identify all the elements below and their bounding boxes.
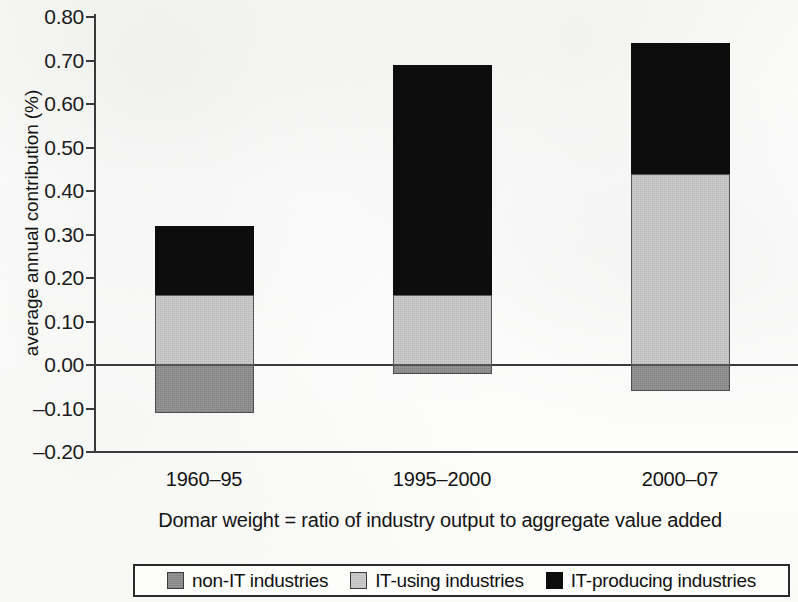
y-axis-tick-label-text: 0.40 (4, 180, 84, 201)
x-axis-caption: Domar weight = ratio of industry output … (120, 508, 760, 533)
y-axis-tick-label: –0.10 (0, 398, 84, 419)
y-axis-tick-label-text: 0.00 (4, 354, 84, 375)
y-axis-tick-label-text: –0.20 (4, 441, 84, 462)
legend-item: IT-using industries (350, 571, 523, 590)
y-axis-title: average annual contribution (%) (21, 58, 43, 388)
y-axis-tick (86, 408, 95, 410)
x-axis-category-label: 1995–2000 (332, 467, 552, 491)
y-axis-tick (86, 321, 95, 323)
axis-bottom-line (94, 451, 798, 453)
y-axis-tick-label-text: 0.50 (4, 137, 84, 158)
y-axis-tick-label: –0.20 (0, 441, 84, 462)
legend-item-label: IT-producing industries (571, 571, 756, 590)
y-axis-tick-label-text: 0.70 (4, 50, 84, 71)
plot-area: 0.800.700.600.500.400.300.200.100.00–0.1… (0, 0, 798, 602)
legend-swatch-icon (546, 572, 563, 589)
bar-segment (631, 43, 730, 174)
bar-segment (393, 65, 492, 296)
bar-segment (155, 365, 254, 413)
y-axis-tick (86, 16, 95, 18)
y-axis-tick-label-text: 0.30 (4, 224, 84, 245)
y-axis-tick (86, 277, 95, 279)
legend-swatch-icon (350, 572, 367, 589)
y-axis-tick-label: 0.80 (0, 6, 84, 27)
chart-legend: non-IT industriesIT-using industriesIT-p… (133, 564, 790, 597)
y-axis-tick (86, 147, 95, 149)
y-axis-tick (86, 103, 95, 105)
bar-segment (631, 174, 730, 365)
y-axis-tick-label-text: 0.60 (4, 93, 84, 114)
legend-item: IT-producing industries (546, 571, 756, 590)
y-axis-tick (86, 234, 95, 236)
legend-item-label: IT-using industries (375, 571, 523, 590)
y-axis-tick-label-text: 0.10 (4, 311, 84, 332)
legend-swatch-icon (167, 572, 184, 589)
x-axis-category-label: 2000–07 (570, 467, 790, 491)
y-axis-tick (86, 190, 95, 192)
bar-segment (393, 295, 492, 365)
bar-segment (155, 226, 254, 296)
legend-item: non-IT industries (167, 571, 328, 590)
y-axis-tick-label-text: 0.20 (4, 267, 84, 288)
y-axis-tick-label-text: –0.10 (4, 398, 84, 419)
y-axis-tick-label-text: 0.80 (4, 6, 84, 27)
chart-figure: 0.800.700.600.500.400.300.200.100.00–0.1… (0, 0, 798, 602)
x-axis-category-label: 1960–95 (94, 467, 314, 491)
bar-segment (155, 295, 254, 365)
bar-segment (393, 365, 492, 374)
legend-item-label: non-IT industries (192, 571, 328, 590)
bar-segment (631, 365, 730, 391)
y-axis-tick (86, 60, 95, 62)
